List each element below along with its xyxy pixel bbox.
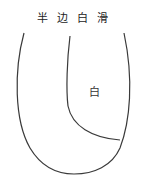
outer-outline <box>17 33 130 174</box>
tongue-diagram <box>0 0 145 192</box>
region-label-white: 白 <box>89 83 100 99</box>
